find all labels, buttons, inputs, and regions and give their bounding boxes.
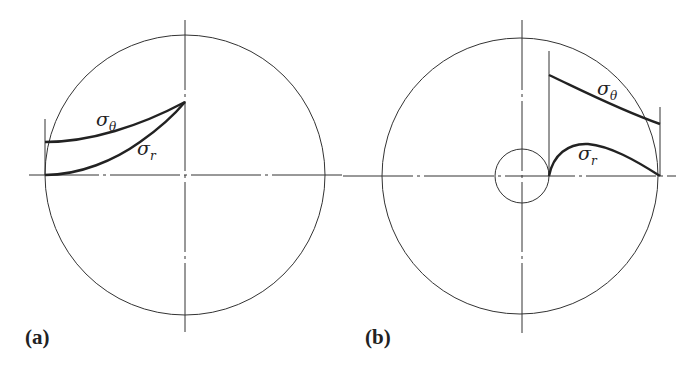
sigma-theta-label: σθ — [96, 108, 117, 134]
sigma-r-curve — [549, 144, 660, 176]
stress-diagram-figure: σθ σr (a) σθ σr (b) — [0, 0, 693, 372]
panel-label-a: (a) — [25, 325, 50, 349]
panel-label-b: (b) — [365, 325, 391, 349]
sigma-r-label: σr — [137, 137, 157, 163]
panel-a: σθ σr (a) — [25, 20, 345, 349]
panel-b: σθ σr (b) — [343, 20, 676, 349]
